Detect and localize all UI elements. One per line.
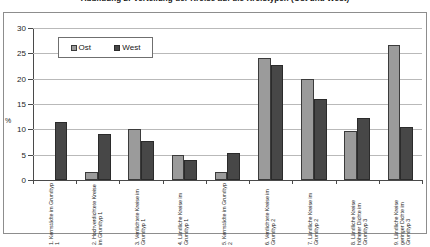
bar-west <box>141 141 154 180</box>
bar-ost <box>85 172 98 180</box>
x-axis-category-label: 6. Verdichtete Kreise im Grundtyp 2 <box>264 183 304 245</box>
x-axis-category-label: 5. Kernstädte im Grundtyp 2 <box>221 183 261 245</box>
y-axis-tick-label: 15 <box>17 100 26 109</box>
x-axis-category-text: 2. Hochverdichtete Kreise im Grundtyp 1 <box>91 183 103 245</box>
bar-west <box>314 99 327 180</box>
x-axis-category-label: 4. Ländliche Kreise im Grundtyp 1 <box>177 183 217 245</box>
x-axis-line <box>33 180 422 181</box>
x-axis-category-text: 8. Ländliche Kreise höherer Dichte im Gr… <box>350 183 369 245</box>
bar-west <box>184 160 197 180</box>
bar-west <box>271 65 284 180</box>
legend-label-ost: Ost <box>79 44 91 52</box>
bar-west <box>357 118 370 180</box>
bar-group <box>206 28 249 180</box>
bar-ost <box>258 58 271 180</box>
y-axis-tick-label: 20 <box>17 74 26 83</box>
bar-group <box>292 28 335 180</box>
y-axis-tick-label: 0 <box>22 176 26 185</box>
legend-item-west: West <box>114 44 140 52</box>
x-axis-category-label: 7. Ländliche Kreise im Grundtyp 2 <box>307 183 347 245</box>
bar-west <box>400 127 413 180</box>
bar-west <box>227 153 240 180</box>
chart-screenshot: Abbildung 2: Verteilung der Kreise auf d… <box>0 0 430 247</box>
x-axis-category-text: 9. Ländliche Kreise geringer Dichte im G… <box>393 183 412 245</box>
x-axis-category-text: 4. Ländliche Kreise im Grundtyp 1 <box>177 183 189 245</box>
bar-west <box>55 122 68 180</box>
legend-swatch-west <box>114 45 120 51</box>
bar-ost <box>215 172 228 180</box>
x-axis-category-labels: 1. Kernstädte im Grundtyp 12. Hochverdic… <box>33 183 422 245</box>
x-axis-category-label: 3. Verdichtete Kreise im Grundtyp 1 <box>134 183 174 245</box>
bar-ost <box>388 45 401 180</box>
bar-group <box>379 28 422 180</box>
chart-legend: Ost West <box>58 37 153 58</box>
x-axis-category-label: 8. Ländliche Kreise höherer Dichte im Gr… <box>350 183 390 245</box>
y-axis-tick-label: 25 <box>17 49 26 58</box>
y-axis-unit-label: % <box>5 117 11 124</box>
x-axis-category-text: 7. Ländliche Kreise im Grundtyp 2 <box>307 183 319 245</box>
x-axis-category-text: 3. Verdichtete Kreise im Grundtyp 1 <box>134 183 146 245</box>
x-axis-category-text: 1. Kernstädte im Grundtyp 1 <box>48 183 60 245</box>
x-axis-category-text: 6. Verdichtete Kreise im Grundtyp 2 <box>264 183 276 245</box>
y-axis-tick-label: 5 <box>22 150 26 159</box>
x-axis-category-label: 9. Ländliche Kreise geringer Dichte im G… <box>393 183 430 245</box>
x-axis-category-text: 5. Kernstädte im Grundtyp 2 <box>221 183 233 245</box>
x-axis-category-label: 2. Hochverdichtete Kreise im Grundtyp 1 <box>91 183 131 245</box>
legend-swatch-ost <box>71 45 77 51</box>
bar-ost <box>344 131 357 180</box>
y-axis-tick-label: 10 <box>17 125 26 134</box>
y-axis-tick-label: 30 <box>17 24 26 33</box>
legend-item-ost: Ost <box>71 44 91 52</box>
bar-group <box>336 28 379 180</box>
bar-ost <box>128 129 141 180</box>
legend-label-west: West <box>122 44 140 52</box>
bar-west <box>98 134 111 180</box>
bar-group <box>163 28 206 180</box>
bar-group <box>249 28 292 180</box>
bar-ost <box>172 155 185 180</box>
bar-ost <box>301 79 314 180</box>
chart-title: Abbildung 2: Verteilung der Kreise auf d… <box>0 0 430 3</box>
x-axis-category-label: 1. Kernstädte im Grundtyp 1 <box>48 183 88 245</box>
